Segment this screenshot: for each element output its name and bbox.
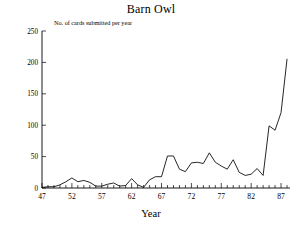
x-tick-label: 87 xyxy=(277,192,285,201)
x-tick-label: 47 xyxy=(38,192,46,201)
x-tick-label: 77 xyxy=(217,192,225,201)
x-tick-label: 72 xyxy=(188,192,196,201)
y-tick-label: 200 xyxy=(27,59,38,67)
plot-area: 050100150200250 475257626772778287 xyxy=(0,0,302,228)
x-tick-label: 52 xyxy=(68,192,76,201)
x-tick-label: 57 xyxy=(98,192,106,201)
data-series-line xyxy=(42,59,287,187)
y-tick-label: 50 xyxy=(31,153,39,161)
x-tick-label: 82 xyxy=(247,192,255,201)
x-tick-label: 67 xyxy=(158,192,166,201)
x-axis-label: Year xyxy=(0,208,302,219)
y-tick-label: 100 xyxy=(27,122,38,130)
x-tick-label: 62 xyxy=(128,192,136,201)
y-axis-ticks: 050100150200250 xyxy=(27,28,46,193)
y-tick-label: 150 xyxy=(27,90,38,98)
chart-container: Barn Owl No. of cards submitted per year… xyxy=(0,0,302,228)
x-axis-ticks: 475257626772778287 xyxy=(38,183,287,201)
y-tick-label: 250 xyxy=(27,28,38,36)
